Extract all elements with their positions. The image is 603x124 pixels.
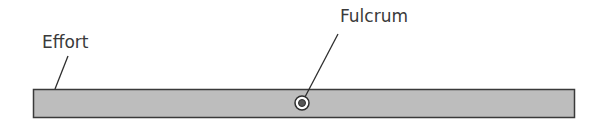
fulcrum-pivot bbox=[299, 100, 306, 107]
lever-graphic bbox=[0, 0, 603, 124]
effort-label: Effort bbox=[42, 34, 89, 51]
effort-leader-line bbox=[55, 56, 68, 89]
fulcrum-label: Fulcrum bbox=[340, 8, 408, 25]
fulcrum-leader-line bbox=[305, 34, 338, 97]
